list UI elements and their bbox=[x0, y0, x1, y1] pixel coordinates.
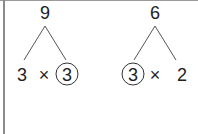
tree2-left-branch bbox=[134, 26, 155, 60]
tree1-left-factor: 3 bbox=[17, 65, 27, 85]
factor-tree-1: 9 3 × 3 bbox=[17, 3, 78, 85]
tree1-right-factor: 3 bbox=[62, 65, 72, 85]
tree1-root: 9 bbox=[40, 3, 50, 23]
tree2-right-factor: 2 bbox=[177, 65, 187, 85]
factor-trees-diagram: 9 3 × 3 6 3 × 2 bbox=[0, 0, 198, 134]
tree2-root: 6 bbox=[150, 3, 160, 23]
tree2-operator: × bbox=[150, 65, 161, 85]
tree2-left-factor: 3 bbox=[128, 65, 138, 85]
tree2-right-branch bbox=[155, 26, 176, 60]
tree1-operator: × bbox=[39, 65, 50, 85]
tree1-right-branch bbox=[45, 26, 66, 60]
tree1-left-branch bbox=[24, 26, 45, 60]
factor-tree-2: 6 3 × 2 bbox=[122, 3, 187, 85]
